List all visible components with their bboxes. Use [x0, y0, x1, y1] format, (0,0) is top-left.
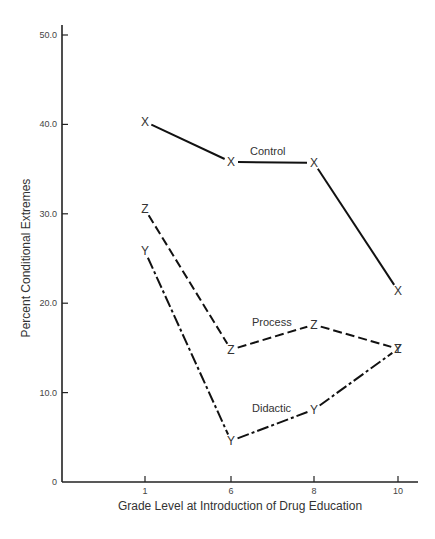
series-line-segment	[238, 327, 308, 348]
data-point-marker: Z	[141, 202, 148, 216]
series-line-segment	[151, 125, 224, 159]
series-control: XXXXControl	[141, 115, 402, 298]
y-tick-label: 0	[52, 477, 57, 487]
y-tick-label: 20.0	[39, 298, 57, 308]
series-line-segment	[149, 215, 228, 343]
line-chart: 010.020.030.040.050.0 16810 XXXXControlZ…	[0, 0, 435, 539]
axes	[62, 25, 418, 482]
x-axis-title: Grade Level at Introduction of Drug Educ…	[118, 499, 362, 513]
data-point-marker: Z	[310, 318, 317, 332]
data-point-marker: Y	[227, 434, 235, 448]
series-didactic: YYYYDidactic	[141, 244, 402, 448]
data-point-marker: Y	[394, 342, 402, 356]
series-line-segment	[238, 412, 308, 438]
data-point-marker: X	[394, 284, 402, 298]
data-point-marker: X	[141, 115, 149, 129]
y-tick-label: 30.0	[39, 209, 57, 219]
series-line-segment	[238, 162, 307, 163]
series-line-segment	[320, 353, 393, 406]
data-point-marker: X	[310, 156, 318, 170]
series-group: XXXXControlZZZZProcessYYYYDidactic	[141, 115, 402, 448]
series-line-segment	[148, 258, 228, 435]
x-tick-label: 6	[228, 486, 233, 496]
series-label: Control	[250, 145, 285, 157]
x-tick-label: 1	[142, 486, 147, 496]
data-point-marker: Y	[141, 244, 149, 258]
x-ticks: 16810	[142, 476, 403, 496]
series-line-segment	[321, 327, 392, 347]
series-process: ZZZZProcess	[141, 202, 401, 356]
y-axis-title: Percent Conditional Extremes	[19, 179, 33, 338]
data-point-marker: Y	[310, 403, 318, 417]
y-tick-label: 10.0	[39, 388, 57, 398]
x-tick-label: 8	[311, 486, 316, 496]
y-tick-label: 40.0	[39, 119, 57, 129]
series-label: Process	[252, 316, 292, 328]
y-ticks: 010.020.030.040.050.0	[39, 30, 68, 487]
data-point-marker: Z	[227, 343, 234, 357]
x-tick-label: 10	[393, 486, 403, 496]
data-point-marker: X	[227, 155, 235, 169]
series-line-segment	[318, 169, 394, 285]
y-tick-label: 50.0	[39, 30, 57, 40]
series-label: Didactic	[252, 402, 292, 414]
